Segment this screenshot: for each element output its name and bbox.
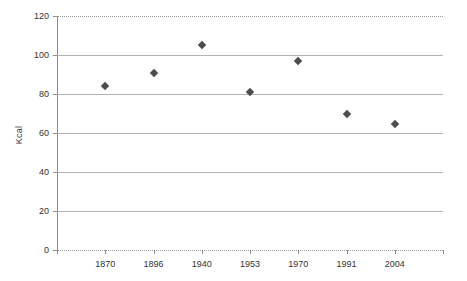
x-tick-label-1991: 1991 <box>322 259 372 269</box>
x-tick-label-1970: 1970 <box>273 259 323 269</box>
x-tick-mark <box>105 250 106 254</box>
x-tick-label-1940: 1940 <box>177 259 227 269</box>
y-tick-label: 120 <box>19 12 49 21</box>
y-tick-label: 40 <box>19 168 49 177</box>
y-tick-label: 100 <box>19 51 49 60</box>
y-tick-label: 60 <box>19 129 49 138</box>
data-point-1870 <box>101 82 109 90</box>
gridline-120 <box>57 16 443 17</box>
x-tick-label-1953: 1953 <box>225 259 275 269</box>
data-point-1991 <box>342 109 350 117</box>
data-point-1940 <box>198 41 206 49</box>
gridline-40 <box>57 172 443 173</box>
y-tick-label: 0 <box>19 246 49 255</box>
data-point-1896 <box>149 68 157 76</box>
data-point-1970 <box>294 57 302 65</box>
x-tick-mark <box>250 250 251 254</box>
y-tick-label: 20 <box>19 207 49 216</box>
gridline-100 <box>57 55 443 56</box>
x-tick-mark <box>395 250 396 254</box>
x-tick-mark <box>443 250 444 254</box>
x-tick-mark <box>347 250 348 254</box>
x-tick-mark <box>57 250 58 254</box>
x-tick-label-1896: 1896 <box>129 259 179 269</box>
y-tick-mark <box>53 16 57 17</box>
x-tick-mark <box>202 250 203 254</box>
plot-area: 020406080100120 187018961940195319701991… <box>57 16 443 250</box>
x-tick-label-1870: 1870 <box>80 259 130 269</box>
x-tick-label-2004: 2004 <box>370 259 420 269</box>
data-point-2004 <box>391 120 399 128</box>
gridline-20 <box>57 211 443 212</box>
y-tick-mark <box>53 55 57 56</box>
x-tick-mark <box>298 250 299 254</box>
y-tick-mark <box>53 211 57 212</box>
x-tick-mark <box>154 250 155 254</box>
y-tick-mark <box>53 133 57 134</box>
y-tick-mark <box>53 172 57 173</box>
gridline-60 <box>57 133 443 134</box>
y-tick-mark <box>53 94 57 95</box>
y-tick-label: 80 <box>19 90 49 99</box>
scatter-chart: Kcal 020406080100120 1870189619401953197… <box>0 0 467 281</box>
data-point-1953 <box>246 88 254 96</box>
